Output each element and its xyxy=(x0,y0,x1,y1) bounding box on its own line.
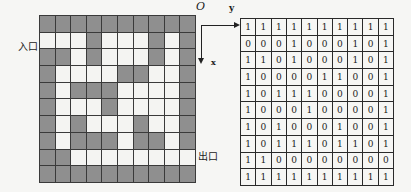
maze-wall-cell xyxy=(71,116,86,132)
matrix-cell: 0 xyxy=(272,69,286,85)
maze-path-cell xyxy=(165,66,180,82)
matrix-cell: 1 xyxy=(348,19,362,35)
maze-wall-cell xyxy=(118,166,133,182)
matrix-cell: 1 xyxy=(241,52,255,68)
maze-path-cell xyxy=(102,66,117,82)
maze-wall-cell xyxy=(165,16,180,32)
matrix-cell: 0 xyxy=(348,119,362,135)
matrix-cell: 1 xyxy=(256,52,270,68)
matrix-cell: 0 xyxy=(241,36,255,52)
maze-wall-cell xyxy=(87,16,102,32)
matrix-cell: 1 xyxy=(318,19,332,35)
maze-path-cell xyxy=(134,99,149,115)
maze-path-cell xyxy=(165,150,180,166)
maze-path-cell xyxy=(87,66,102,82)
maze-wall-cell xyxy=(180,83,195,99)
maze-path-cell xyxy=(149,66,164,82)
maze-wall-cell xyxy=(180,116,195,132)
maze-path-cell xyxy=(134,83,149,99)
matrix-cell: 1 xyxy=(363,19,377,35)
matrix-cell: 0 xyxy=(333,86,347,102)
matrix-cell: 0 xyxy=(333,102,347,118)
maze-wall-cell xyxy=(56,16,71,32)
maze-wall-cell xyxy=(40,99,55,115)
maze-path-cell xyxy=(165,116,180,132)
matrix-cell: 1 xyxy=(333,136,347,152)
matrix-cell: 1 xyxy=(363,169,377,185)
maze-path-cell xyxy=(134,49,149,65)
matrix-cell: 0 xyxy=(363,119,377,135)
matrix-cell: 0 xyxy=(379,153,393,169)
maze-wall-cell xyxy=(40,133,55,149)
matrix-cell: 1 xyxy=(241,153,255,169)
maze-path-cell xyxy=(118,133,133,149)
maze-path-cell xyxy=(118,99,133,115)
maze-grid xyxy=(39,15,196,183)
matrix-cell: 1 xyxy=(272,119,286,135)
matrix-cell: 0 xyxy=(363,136,377,152)
matrix-cell: 0 xyxy=(272,52,286,68)
matrix-cell: 1 xyxy=(379,86,393,102)
matrix-cell: 1 xyxy=(379,169,393,185)
maze-wall-cell xyxy=(87,83,102,99)
maze-path-cell xyxy=(165,49,180,65)
matrix-cell: 0 xyxy=(318,119,332,135)
maze-path-cell xyxy=(71,49,86,65)
matrix-cell: 1 xyxy=(379,69,393,85)
matrix-cell: 1 xyxy=(241,69,255,85)
matrix-cell: 1 xyxy=(379,19,393,35)
exit-label: 出口 xyxy=(198,152,218,162)
matrix-cell: 0 xyxy=(302,153,316,169)
matrix-cell: 0 xyxy=(318,36,332,52)
matrix-cell: 1 xyxy=(241,19,255,35)
matrix-cell: 1 xyxy=(379,36,393,52)
matrix-cell: 0 xyxy=(272,153,286,169)
maze-wall-cell xyxy=(149,16,164,32)
maze-wall-cell xyxy=(102,99,117,115)
matrix-cell: 1 xyxy=(256,153,270,169)
matrix-cell: 0 xyxy=(363,153,377,169)
matrix-cell: 0 xyxy=(302,119,316,135)
maze-path-cell xyxy=(102,49,117,65)
matrix-cell: 0 xyxy=(348,69,362,85)
maze-path-cell xyxy=(165,133,180,149)
maze-path-cell xyxy=(56,66,71,82)
matrix-cell: 0 xyxy=(363,36,377,52)
maze-path-cell xyxy=(56,99,71,115)
y-axis-line xyxy=(202,25,236,26)
matrix-cell: 0 xyxy=(256,36,270,52)
maze-path-cell xyxy=(56,133,71,149)
maze-wall-cell xyxy=(87,49,102,65)
matrix-cell: 1 xyxy=(287,52,301,68)
maze-wall-cell xyxy=(180,166,195,182)
y-axis-label: y xyxy=(229,3,234,13)
maze-path-cell xyxy=(118,116,133,132)
maze-wall-cell xyxy=(40,116,55,132)
maze-path-cell xyxy=(118,83,133,99)
maze-wall-cell xyxy=(40,83,55,99)
maze-matrix-table: 1111111111000100010111010001011000011001… xyxy=(240,18,394,186)
maze-path-cell xyxy=(165,83,180,99)
maze-path-cell xyxy=(87,116,102,132)
matrix-cell: 1 xyxy=(333,19,347,35)
matrix-cell: 1 xyxy=(379,52,393,68)
maze-path-cell xyxy=(118,150,133,166)
matrix-cell: 1 xyxy=(333,69,347,85)
maze-path-cell xyxy=(71,33,86,49)
maze-wall-cell xyxy=(180,33,195,49)
matrix-cell: 1 xyxy=(302,136,316,152)
matrix-cell: 1 xyxy=(256,169,270,185)
maze-wall-cell xyxy=(134,166,149,182)
maze-path-cell xyxy=(149,83,164,99)
maze-wall-cell xyxy=(87,166,102,182)
maze-path-cell xyxy=(40,33,55,49)
maze-path-cell xyxy=(134,150,149,166)
entrance-label: 入口 xyxy=(18,42,38,52)
maze-path-cell xyxy=(102,150,117,166)
matrix-cell: 0 xyxy=(256,136,270,152)
matrix-cell: 1 xyxy=(348,36,362,52)
matrix-cell: 1 xyxy=(272,169,286,185)
matrix-cell: 0 xyxy=(318,52,332,68)
matrix-cell: 1 xyxy=(379,136,393,152)
x-axis-label: x xyxy=(211,57,216,67)
